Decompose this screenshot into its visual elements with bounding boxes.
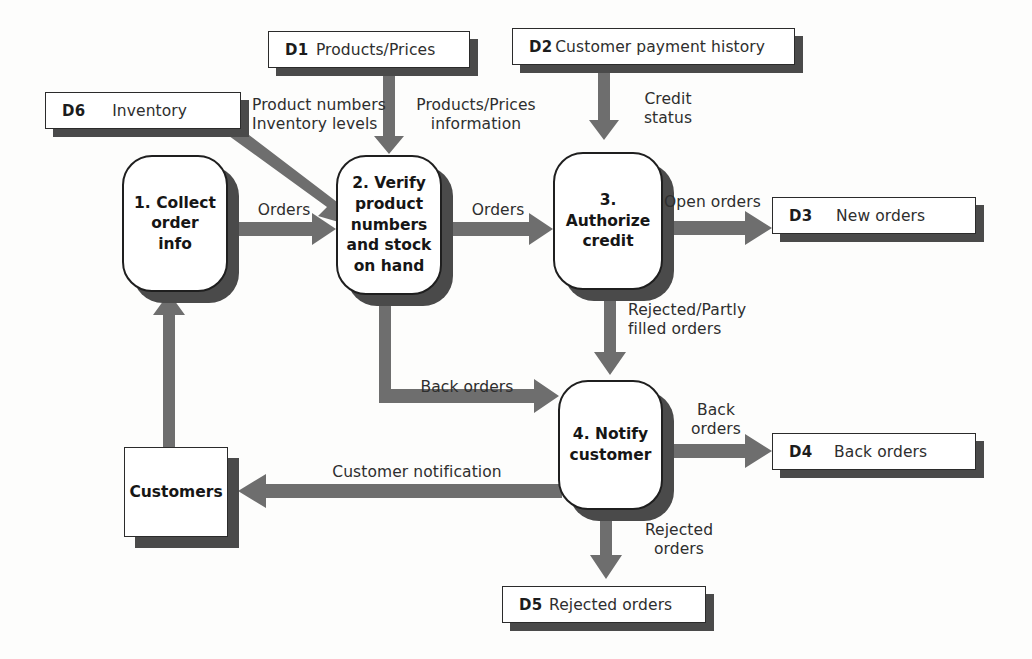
flow-label-rejected-partly-filled-orders: Rejected/Partly filled orders [628, 301, 788, 339]
datastore-d3-id: D3 [773, 207, 812, 225]
datastore-d4-id: D4 [773, 443, 812, 461]
arrow-process3-to-process4 [594, 292, 626, 375]
flow-label-orders-2-3: Orders [452, 201, 544, 220]
datastore-d3-label: New orders [812, 207, 975, 225]
datastore-d1-label: Products/Prices [308, 41, 469, 59]
datastore-d6[interactable]: D6 Inventory [45, 92, 241, 129]
flow-label-back-orders-4-d4: Back orders [676, 401, 756, 439]
datastore-d6-id: D6 [46, 102, 85, 120]
datastore-d6-label: Inventory [85, 102, 240, 120]
flow-label-rejected-orders: Rejected orders [626, 521, 732, 559]
flow-label-credit-status: Credit status [622, 90, 714, 128]
process-1-label: 1. Collect order info [128, 193, 222, 255]
entity-customers[interactable]: Customers [124, 447, 228, 537]
process-4-label: 4. Notify customer [564, 424, 658, 465]
process-1[interactable]: 1. Collect order info [122, 155, 228, 292]
flow-label-products-prices-information: Products/Prices information [406, 96, 546, 134]
arrow-customers-to-process1 [153, 293, 185, 447]
flow-label-open-orders: Open orders [664, 193, 774, 212]
process-2[interactable]: 2. Verify product numbers and stock on h… [336, 155, 442, 295]
arrow-d2-to-process3 [589, 62, 619, 140]
datastore-d5-id: D5 [503, 596, 542, 614]
datastore-d3[interactable]: D3 New orders [772, 197, 976, 234]
process-3-label: 3. Authorize credit [555, 190, 661, 252]
arrow-process3-to-d3 [663, 211, 772, 245]
datastore-d5[interactable]: D5 Rejected orders [502, 586, 706, 623]
flow-label-customer-notification: Customer notification [310, 463, 524, 482]
datastore-d4[interactable]: D4 Back orders [772, 433, 976, 470]
datastore-d1[interactable]: D1 Products/Prices [268, 31, 470, 68]
datastore-d2[interactable]: D2 Customer payment history [512, 28, 795, 65]
flow-label-orders-1-2: Orders [238, 201, 330, 220]
dfd-canvas: D1 Products/Prices D2 Customer payment h… [0, 0, 1032, 659]
process-3[interactable]: 3. Authorize credit [553, 152, 663, 290]
datastore-d5-label: Rejected orders [542, 596, 705, 614]
process-2-label: 2. Verify product numbers and stock on h… [341, 173, 438, 276]
datastore-d2-id: D2 [513, 38, 552, 56]
datastore-d1-id: D1 [269, 41, 308, 59]
flow-label-back-orders-2-4: Back orders [404, 378, 530, 397]
process-4[interactable]: 4. Notify customer [558, 380, 663, 510]
entity-customers-label: Customers [129, 483, 222, 501]
datastore-d2-label: Customer payment history [552, 38, 794, 56]
flow-label-product-numbers-inventory-levels: Product numbers Inventory levels [252, 96, 422, 134]
datastore-d4-label: Back orders [812, 443, 975, 461]
